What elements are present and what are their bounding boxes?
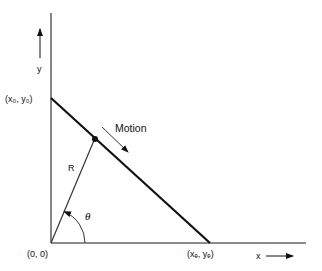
start-point-label: (x₀, y₀) — [5, 94, 32, 104]
y-axis-label: y — [37, 64, 42, 74]
diagram-canvas: y x (x₀, y₀) (0, 0) (xₑ, yₑ) Motion R θ — [0, 0, 322, 271]
origin-label: (0, 0) — [27, 249, 48, 259]
x-axis-label: x — [256, 251, 261, 261]
angle-label: θ — [85, 210, 91, 222]
motion-label: Motion — [115, 122, 147, 134]
moving-point — [92, 136, 98, 142]
radius-line — [51, 138, 95, 243]
trajectory-line — [51, 98, 210, 243]
end-point-label: (xₑ, yₑ) — [187, 249, 214, 259]
angle-arc — [64, 212, 85, 243]
radius-label: R — [68, 163, 75, 173]
